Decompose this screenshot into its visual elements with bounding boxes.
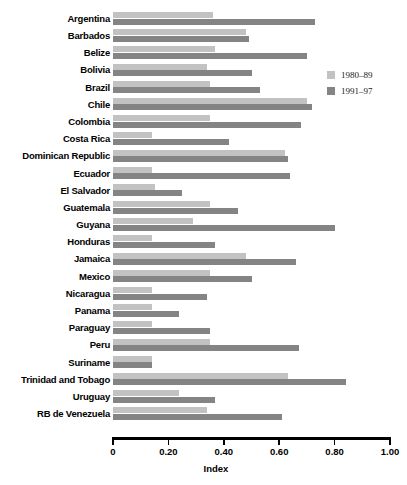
category-label: Mexico: [0, 272, 110, 282]
bar-row: Belize: [0, 44, 407, 61]
legend-item: 1991–97: [327, 84, 405, 97]
bar-group: [113, 355, 390, 370]
bar-series-1991-97: [113, 208, 238, 214]
bar-group: [113, 252, 390, 267]
category-label: RB de Venezuela: [0, 409, 110, 419]
bar-series-1980-89: [113, 373, 288, 379]
category-label: Guatemala: [0, 203, 110, 213]
bar-group: [113, 269, 390, 284]
bar-row: Trinidad and Tobago: [0, 371, 407, 388]
bar-group: [113, 45, 390, 60]
bar-row: Nicaragua: [0, 285, 407, 302]
category-label: Paraguay: [0, 323, 110, 333]
bar-row: Costa Rica: [0, 130, 407, 147]
bar-row: Ecuador: [0, 165, 407, 182]
bar-series-1991-97: [113, 156, 288, 162]
category-label: Peru: [0, 340, 110, 350]
category-label: Nicaragua: [0, 289, 110, 299]
bar-row: Guyana: [0, 216, 407, 233]
bar-series-1980-89: [113, 253, 246, 259]
bar-row: RB de Venezuela: [0, 405, 407, 422]
bar-group: [113, 234, 390, 249]
category-label: Costa Rica: [0, 134, 110, 144]
bar-row: Suriname: [0, 354, 407, 371]
x-axis-tick-label: 0.80: [325, 446, 344, 457]
bar-series-1991-97: [113, 122, 301, 128]
bar-group: [113, 338, 390, 353]
bar-group: [113, 372, 390, 387]
bar-group: [113, 28, 390, 43]
bar-group: [113, 200, 390, 215]
category-label: Belize: [0, 48, 110, 58]
category-label: Bolivia: [0, 65, 110, 75]
bar-series-1991-97: [113, 87, 260, 93]
bar-row: Dominican Republic: [0, 148, 407, 165]
x-axis-tick: [389, 440, 391, 445]
bar-series-1980-89: [113, 150, 285, 156]
x-axis-tick-label: 0.20: [159, 446, 178, 457]
category-label: Panama: [0, 306, 110, 316]
bar-group: [113, 286, 390, 301]
x-axis-tick-label: 1.00: [381, 446, 400, 457]
bar-group: [113, 149, 390, 164]
x-axis-line: [112, 437, 391, 440]
bar-series-1980-89: [113, 321, 152, 327]
bar-series-1991-97: [113, 173, 290, 179]
bar-series-1980-89: [113, 287, 152, 293]
legend-label-1991-97: 1991–97: [341, 86, 373, 96]
bar-group: [113, 303, 390, 318]
category-label: Barbados: [0, 31, 110, 41]
legend-label-1980-89: 1980–89: [341, 70, 373, 80]
x-axis-title-label: Index: [204, 463, 229, 474]
bar-series-1991-97: [113, 276, 252, 282]
bar-series-1980-89: [113, 339, 210, 345]
category-label: Ecuador: [0, 169, 110, 179]
bar-series-1980-89: [113, 167, 152, 173]
x-axis-tick: [168, 440, 170, 445]
bar-series-1991-97: [113, 36, 249, 42]
bar-series-1991-97: [113, 294, 207, 300]
bar-row: Jamaica: [0, 251, 407, 268]
bar-row: Honduras: [0, 233, 407, 250]
category-label: Colombia: [0, 117, 110, 127]
bar-series-1991-97: [113, 70, 252, 76]
bar-series-1991-97: [113, 414, 282, 420]
bar-series-1991-97: [113, 19, 315, 25]
legend-swatch-1980-89: [327, 71, 335, 79]
category-label: Brazil: [0, 83, 110, 93]
bar-series-1991-97: [113, 311, 179, 317]
category-label: El Salvador: [0, 186, 110, 196]
x-axis-tick-label: 0.40: [215, 446, 234, 457]
bar-series-1980-89: [113, 235, 152, 241]
bar-row: Paraguay: [0, 319, 407, 336]
bar-row: Uruguay: [0, 388, 407, 405]
category-label: Uruguay: [0, 392, 110, 402]
bar-group: [113, 131, 390, 146]
bar-series-1991-97: [113, 397, 215, 403]
bar-row: Panama: [0, 302, 407, 319]
x-axis-tick: [334, 440, 336, 445]
bar-series-1991-97: [113, 259, 296, 265]
bar-series-1980-89: [113, 81, 210, 87]
bar-series-1980-89: [113, 201, 210, 207]
bar-group: [113, 183, 390, 198]
bar-row: El Salvador: [0, 182, 407, 199]
bar-row: Guatemala: [0, 199, 407, 216]
x-axis-tick-label: 0.60: [270, 446, 289, 457]
bar-series-1980-89: [113, 270, 210, 276]
x-axis-title: Index: [0, 463, 407, 474]
bar-series-1991-97: [113, 190, 182, 196]
bar-series-1980-89: [113, 12, 213, 18]
bar-group: [113, 389, 390, 404]
bar-series-1991-97: [113, 53, 307, 59]
legend-swatch-1991-97: [327, 87, 335, 95]
bar-group: [113, 217, 390, 232]
bar-series-1980-89: [113, 407, 207, 413]
category-label: Honduras: [0, 237, 110, 247]
category-label: Guyana: [0, 220, 110, 230]
bar-series-1980-89: [113, 46, 215, 52]
x-axis-tick: [112, 440, 114, 445]
bar-series-1991-97: [113, 139, 229, 145]
bar-series-1980-89: [113, 184, 155, 190]
bar-series-1991-97: [113, 345, 299, 351]
